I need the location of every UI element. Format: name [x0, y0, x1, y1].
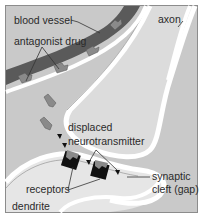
label-antagonist-drug: antagonist drug [14, 35, 87, 47]
label-dendrite: dendrite [12, 200, 50, 212]
label-axon: axon [158, 13, 181, 25]
label-cleft-gap: cleft (gap) [152, 183, 199, 195]
label-blood-vessel: blood vessel [14, 14, 72, 26]
label-synaptic: synaptic [152, 170, 191, 182]
label-displaced: displaced [68, 121, 113, 133]
synapse-diagram: blood vessel antagonist drug axon displa… [0, 0, 208, 220]
label-receptors: receptors [26, 183, 70, 195]
label-neurotransmitter: neurotransmitter [68, 135, 145, 147]
